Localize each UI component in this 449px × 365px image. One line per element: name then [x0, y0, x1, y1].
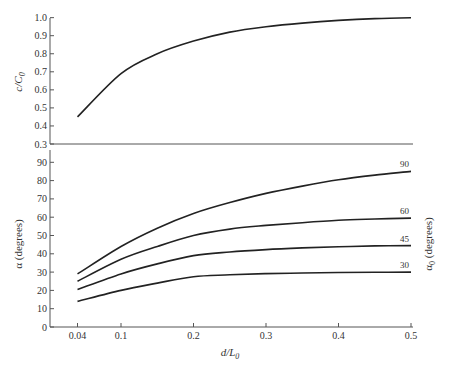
top-y-tick-label: 0.5 — [35, 102, 48, 113]
alpha-curve-30 — [78, 272, 412, 301]
bottom-y-axis-label: α (degrees) — [12, 219, 25, 269]
x-tick-label: 0.1 — [115, 330, 128, 341]
curve-label-90: 90 — [400, 159, 410, 169]
top-y-tick-label: 0.3 — [35, 139, 48, 150]
bottom-y-tick-label: 30 — [37, 267, 47, 278]
right-y-axis-label: α0 (degrees) — [422, 217, 437, 271]
x-axis: 0.040.10.20.30.40.5 — [50, 323, 417, 341]
c-over-c0-curve — [78, 18, 412, 117]
x-tick-label: 0.4 — [332, 330, 345, 341]
alpha-curve-45 — [78, 246, 412, 290]
bottom-y-tick-label: 60 — [37, 212, 47, 223]
bottom-y-tick-label: 90 — [37, 157, 47, 168]
top-y-tick-label: 0.9 — [35, 30, 48, 41]
x-tick-label: 0.5 — [405, 330, 418, 341]
chart: 0.30.40.50.60.70.80.91.0 010203040506070… — [0, 0, 449, 365]
bottom-y-tick-label: 40 — [37, 248, 47, 259]
top-y-tick-label: 1.0 — [35, 12, 48, 23]
bottom-y-tick-label: 70 — [37, 193, 47, 204]
top-y-tick-label: 0.7 — [35, 66, 48, 77]
curve-label-60: 60 — [400, 206, 410, 216]
bottom-panel: 010203040506070809090604530 — [37, 150, 411, 333]
top-y-axis-label: c/C0 — [12, 72, 27, 91]
curve-label-30: 30 — [400, 260, 410, 270]
curve-label-45: 45 — [400, 234, 410, 244]
bottom-y-tick-label: 0 — [42, 322, 47, 333]
alpha-curve-90 — [78, 171, 412, 274]
top-y-tick-label: 0.6 — [35, 84, 48, 95]
x-tick-label: 0.3 — [260, 330, 273, 341]
x-axis-label: d/L0 — [221, 346, 240, 361]
x-tick-label: 0.2 — [187, 330, 200, 341]
bottom-y-tick-label: 20 — [37, 285, 47, 296]
top-y-tick-label: 0.4 — [35, 120, 48, 131]
top-y-tick-label: 0.8 — [35, 48, 48, 59]
bottom-y-tick-label: 50 — [37, 230, 47, 241]
x-tick-label: 0.04 — [69, 330, 87, 341]
bottom-y-tick-label: 10 — [37, 303, 47, 314]
bottom-y-tick-label: 80 — [37, 175, 47, 186]
top-panel: 0.30.40.50.60.70.80.91.0 — [35, 12, 414, 149]
